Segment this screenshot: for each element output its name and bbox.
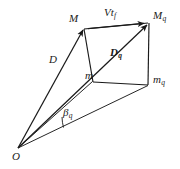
label-angle-beta-sub: q: [68, 111, 72, 120]
label-vector-Dq-base: D: [110, 46, 118, 58]
edge-mq-upper-to-mq-lower: [148, 23, 149, 85]
line-o-to-mq-lower: [18, 86, 148, 149]
label-point-m: m: [85, 70, 93, 81]
vector-diagram-figure: M Mq Vtf D Dq m mq βq O: [0, 0, 180, 169]
label-vector-D: D: [49, 54, 57, 65]
label-vector-Dq-sub: q: [118, 51, 122, 60]
label-origin-O: O: [12, 151, 20, 162]
vector-vtf-arrow: [88, 23, 144, 28]
label-vector-Vtf-sub: f: [114, 11, 116, 20]
label-vector-Vtf-base: Vt: [104, 6, 114, 18]
label-point-Mq: Mq: [153, 10, 166, 23]
label-vector-Dq: Dq: [110, 47, 122, 60]
label-point-Mq-sub: q: [162, 14, 166, 23]
vector-dq-arrow: [18, 25, 147, 148]
label-point-mq: mq: [153, 74, 165, 87]
label-point-Mq-base: M: [153, 9, 162, 21]
label-point-M: M: [69, 13, 78, 24]
label-vector-Vtf: Vtf: [104, 7, 116, 20]
label-point-mq-base: m: [153, 73, 161, 85]
line-o-to-m-lower: [18, 82, 93, 149]
label-angle-beta-q: βq: [63, 107, 73, 120]
label-point-mq-sub: q: [161, 78, 165, 87]
edge-mq-lower-to-m-lower: [93, 82, 148, 85]
vector-d-arrow: [18, 30, 83, 148]
